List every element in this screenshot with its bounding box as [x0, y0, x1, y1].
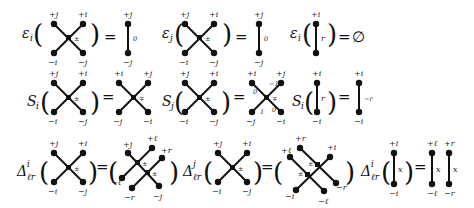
label-bottom-2: −r: [444, 189, 456, 198]
label-tr1: +ℓ: [147, 134, 158, 143]
label-tr: +j: [143, 69, 153, 78]
right-paren: ): [90, 87, 100, 117]
edge-label-bl: 1: [260, 108, 264, 116]
double-crossing-diagram: +j +ℓ +r −ℓ −r −j ± ±: [111, 134, 173, 202]
sign-center: ±: [205, 95, 210, 103]
left-paren: (: [33, 19, 43, 49]
operator-subscript: ℓr: [193, 172, 202, 182]
label-tr: +i: [209, 10, 219, 19]
label-br: −j: [242, 187, 252, 196]
equals-sign: =: [414, 158, 427, 176]
left-paren: (: [302, 19, 312, 49]
label-side-2: x: [453, 165, 458, 174]
operator-subscript: ℓr: [27, 172, 36, 182]
right-paren: ): [404, 157, 414, 187]
left-paren: (: [40, 87, 50, 117]
label-tr: +i: [78, 69, 88, 78]
label-tr: +i: [327, 143, 337, 152]
equals-sign: =: [338, 28, 351, 46]
label-bl1: −ℓ: [111, 178, 122, 187]
strand-pair-diagram: +ℓ −ℓ x +r −r x: [427, 139, 458, 198]
crossing-diagram: +j +i −i −j ±: [179, 69, 219, 126]
label-br: −j: [78, 117, 88, 126]
label-bottom: −i: [312, 117, 322, 126]
sign-center: ±: [205, 35, 210, 43]
right-paren: ): [327, 87, 337, 117]
equals-sign: =: [96, 158, 109, 176]
label-tr: +i: [78, 10, 88, 19]
label-bl: −i: [212, 187, 222, 196]
label-bl: −j: [113, 117, 123, 126]
operator-subscript: ℓr: [371, 172, 380, 182]
label-side: 0: [264, 35, 268, 43]
equals-sign: =: [338, 88, 351, 106]
crossing-diagram: +j +i −i −j ±: [212, 139, 252, 196]
equals-sign: =: [102, 88, 115, 106]
equation-epsilon-i-crossing: ε i ( +j +i −i −j ± ) = +j −j 0: [22, 10, 137, 67]
label-top: +i: [354, 69, 364, 78]
operator-superscript: i: [371, 159, 374, 169]
label-top-2: +r: [444, 139, 456, 148]
crossing-diagram-result: +i +j −j −i ∓ 0 −1 1 0: [246, 69, 286, 126]
label-bottom: −j: [123, 58, 133, 67]
label-tl: +i: [114, 69, 124, 78]
operator-subscript: i: [298, 33, 301, 43]
label-tr: +i: [209, 69, 219, 78]
equation-s-i-crossing: S i ( +j +i −i −j ± ) = +i +j −j −i ∓: [27, 69, 153, 126]
operator-epsilon: ε: [290, 25, 298, 41]
label-br1: −ℓ: [318, 197, 329, 206]
label-side-1: x: [436, 165, 441, 174]
label-br: −j: [209, 58, 219, 67]
left-paren: (: [203, 157, 213, 187]
sign-center: ±: [74, 165, 79, 173]
label-tr: +i: [242, 139, 252, 148]
equals-sign: =: [233, 88, 246, 106]
label-side: 0: [133, 35, 137, 43]
sign-center: ∓: [139, 95, 144, 103]
crossing-diagram: +j +i −i −j ±: [179, 10, 219, 67]
label-side: r: [321, 94, 326, 103]
empty-set: ∅: [352, 28, 365, 46]
label-tl2: +r: [295, 134, 307, 143]
left-paren: (: [381, 157, 391, 187]
sign-center-2: ±: [152, 170, 157, 178]
label-top: +i: [389, 139, 399, 148]
diagram-canvas: ε i ( +j +i −i −j ± ) = +j −j 0 ε j (: [0, 0, 474, 208]
sign-center: ±: [238, 165, 243, 173]
label-tl: +j: [49, 69, 59, 78]
label-side: r: [321, 34, 326, 43]
equation-epsilon-j-crossing: ε j ( +j +i −i −j ± ) = +j −j 0: [162, 10, 268, 67]
label-top: +j: [123, 10, 133, 19]
sign-center-2: ±: [298, 170, 303, 178]
sign-center-1: ±: [142, 160, 147, 168]
sign-center: ∓: [272, 95, 277, 103]
equation-s-i-strand: S i ( +i −i r ) = +i −i −r: [292, 69, 373, 126]
label-tl: +j: [180, 69, 190, 78]
left-paren: (: [273, 157, 283, 187]
label-tl: +j: [49, 139, 59, 148]
right-paren: ): [327, 19, 337, 49]
edge-label-tr: −1: [269, 80, 279, 88]
label-top: +i: [311, 10, 321, 19]
label-br: −j: [78, 58, 88, 67]
right-paren: ): [169, 157, 179, 187]
operator-superscript: i: [27, 159, 30, 169]
label-tr: +i: [78, 139, 88, 148]
crossing-diagram: +j +i −i −j ±: [48, 139, 88, 196]
label-tl1: +ℓ: [281, 146, 292, 155]
equation-delta-j-crossing: Δ j ℓr ( +j +i −i −j ± ) = (: [182, 134, 355, 206]
label-bottom: −i: [354, 117, 364, 126]
label-bl: −i: [48, 117, 58, 126]
strand-diagram: +j −j 0: [123, 10, 137, 67]
operator-epsilon: ε: [162, 25, 170, 41]
edge-label-tl: 0: [253, 88, 257, 96]
edge-label-br: 0: [272, 106, 276, 114]
sign-center-1: ±: [308, 160, 313, 168]
operator-delta: Δ: [360, 163, 371, 179]
label-bl: −i: [285, 192, 295, 201]
right-paren: ): [90, 19, 100, 49]
equation-delta-i-crossing: Δ i ℓr ( +j +i −i −j ± ) = (: [16, 134, 179, 202]
operator-epsilon: ε: [22, 25, 30, 41]
label-tl: +j: [123, 140, 133, 149]
label-bottom: −i: [389, 189, 399, 198]
